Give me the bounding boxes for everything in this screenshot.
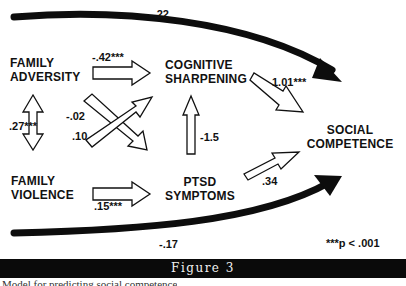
coef-correlation: .27*** bbox=[9, 120, 37, 132]
path-diagram: FAMILY ADVERSITY FAMILY VIOLENCE COGNITI… bbox=[0, 0, 406, 286]
node-family-violence: FAMILY VIOLENCE bbox=[11, 174, 74, 202]
node-cognitive-sharpening: COGNITIVE SHARPENING bbox=[165, 58, 247, 86]
coef-adversity-ptsd: -.02 bbox=[66, 110, 85, 122]
node-social-competence: SOCIAL COMPETENCE bbox=[300, 123, 400, 151]
node-ptsd-symptoms: PTSD SYMPTOMS bbox=[160, 175, 240, 203]
figure-caption: Model for predicting social competence bbox=[2, 278, 177, 286]
figure-title: Figure 3 bbox=[0, 261, 406, 275]
hollow-arrow-ptsd-cognitive bbox=[183, 96, 199, 154]
coef-violence-ptsd: .15*** bbox=[94, 200, 122, 212]
coef-adversity-cognitive: -.42*** bbox=[92, 51, 124, 63]
coef-violence-cognitive: .10 bbox=[72, 130, 87, 142]
figure-banner: Figure 3 bbox=[0, 259, 406, 278]
significance-note: ***p < .001 bbox=[326, 237, 380, 249]
coef-ptsd-cognitive: -1.5 bbox=[200, 131, 219, 143]
coef-cognitive-competence: 1.01*** bbox=[272, 76, 306, 88]
coef-violence-competence: -.17 bbox=[159, 238, 178, 250]
coef-ptsd-competence: .34 bbox=[262, 175, 277, 187]
coef-adversity-competence: -.22 bbox=[150, 8, 169, 20]
hollow-arrow-adversity-cognitive bbox=[93, 61, 150, 85]
node-family-adversity: FAMILY ADVERSITY bbox=[10, 56, 80, 84]
